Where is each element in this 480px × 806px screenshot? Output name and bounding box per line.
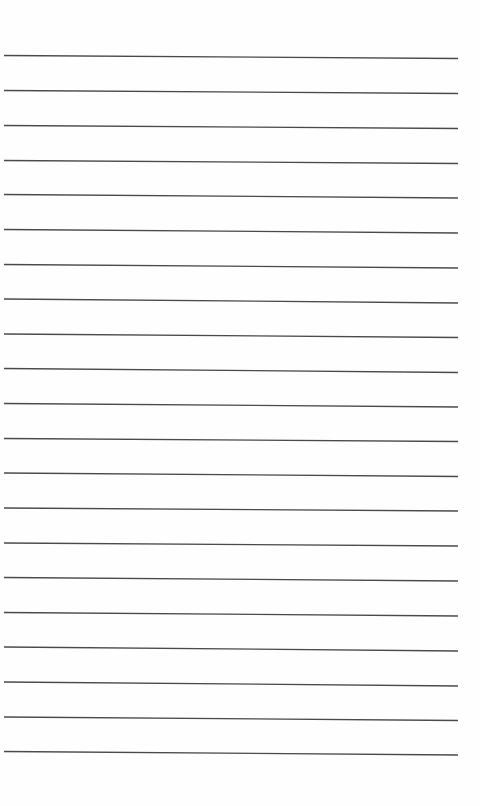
ruled-lines bbox=[0, 0, 480, 806]
ruled-line-18 bbox=[4, 647, 458, 651]
ruled-line-14 bbox=[4, 508, 458, 511]
ruled-line-9 bbox=[4, 334, 458, 338]
ruled-line-15 bbox=[4, 543, 458, 546]
lined-paper-page bbox=[0, 0, 480, 806]
ruled-line-10 bbox=[4, 369, 458, 373]
ruled-line-8 bbox=[4, 299, 458, 303]
ruled-line-19 bbox=[4, 682, 458, 686]
ruled-line-4 bbox=[4, 161, 458, 164]
ruled-line-5 bbox=[4, 195, 458, 199]
ruled-line-17 bbox=[4, 613, 458, 617]
ruled-line-6 bbox=[4, 230, 458, 234]
ruled-line-11 bbox=[4, 404, 458, 408]
ruled-line-20 bbox=[4, 717, 458, 721]
ruled-line-12 bbox=[4, 439, 458, 442]
ruled-line-21 bbox=[4, 752, 458, 756]
ruled-line-7 bbox=[4, 265, 458, 269]
ruled-line-2 bbox=[4, 91, 458, 94]
ruled-line-3 bbox=[4, 126, 458, 129]
ruled-line-13 bbox=[4, 473, 458, 477]
ruled-line-16 bbox=[4, 578, 458, 582]
ruled-line-1 bbox=[4, 56, 458, 59]
